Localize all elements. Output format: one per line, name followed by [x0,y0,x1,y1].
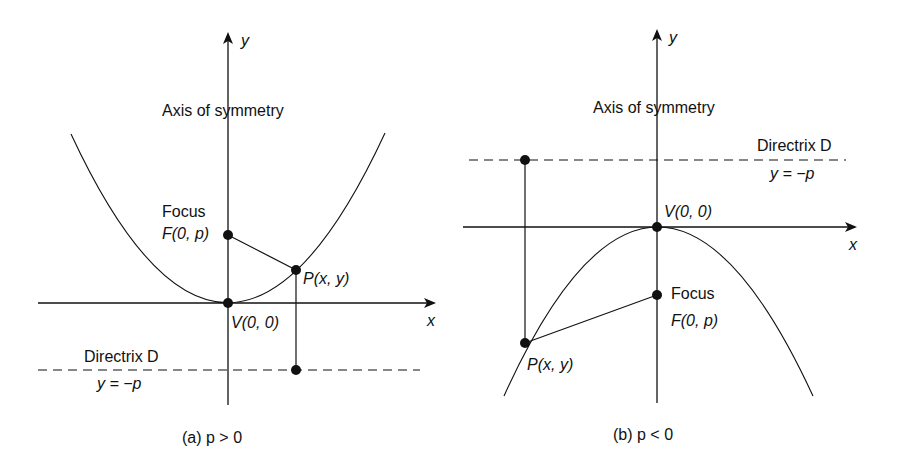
focus-dot-a [223,230,233,240]
point-p-dot-b [520,338,530,348]
directrix-title-a: Directrix D [84,349,159,365]
directrix-foot-dot-b [520,155,530,165]
figure-b [463,31,855,403]
diagram-canvas [0,0,898,471]
axis-of-symmetry-label-a: Axis of symmetry [162,103,284,119]
focus-point-label-a: F(0, p) [162,226,209,242]
y-axis-label-b: y [669,30,677,46]
directrix-equation-a: y = −p [97,376,141,392]
vertex-label-b: V(0, 0) [664,204,712,220]
caption-b: (b) p < 0 [613,427,673,443]
focus-to-point-segment-a [228,235,296,270]
vertex-dot-a [223,298,233,308]
focus-title-a: Focus [162,204,206,220]
vertex-label-a: V(0, 0) [231,315,279,331]
focus-dot-b [652,290,662,300]
caption-a: (a) p > 0 [182,430,242,446]
point-p-label-a: P(x, y) [303,271,349,287]
point-p-dot-a [291,265,301,275]
directrix-title-b: Directrix D [757,138,832,154]
y-axis-label-a: y [241,33,249,49]
x-axis-label-a: x [427,313,435,329]
point-p-label-b: P(x, y) [527,357,573,373]
focus-point-label-b: F(0, p) [671,313,718,329]
focus-title-b: Focus [671,286,715,302]
vertex-dot-b [652,222,662,232]
directrix-equation-b: y = −p [770,166,814,182]
axis-of-symmetry-label-b: Axis of symmetry [593,100,715,116]
x-axis-label-b: x [849,237,857,253]
directrix-foot-dot-a [291,365,301,375]
